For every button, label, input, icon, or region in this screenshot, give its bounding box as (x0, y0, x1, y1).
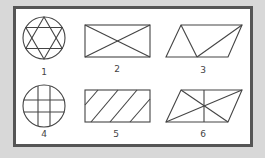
figure-5-label: 5 (113, 129, 119, 139)
figure-4-label: 4 (41, 129, 47, 139)
figure-6-label: 6 (200, 129, 206, 139)
figure-panel-stage: 1 2 3 4 5 6 (0, 0, 265, 158)
figure-3-label: 3 (200, 65, 206, 75)
figure-2-label: 2 (114, 64, 120, 74)
figure-1-label: 1 (41, 67, 47, 77)
figures-diagram: 1 2 3 4 5 6 (0, 0, 265, 158)
